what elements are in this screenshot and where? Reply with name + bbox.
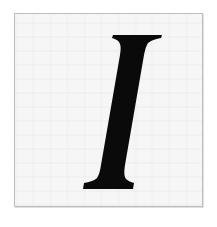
italic-letter-i-glyph bbox=[0, 0, 217, 227]
